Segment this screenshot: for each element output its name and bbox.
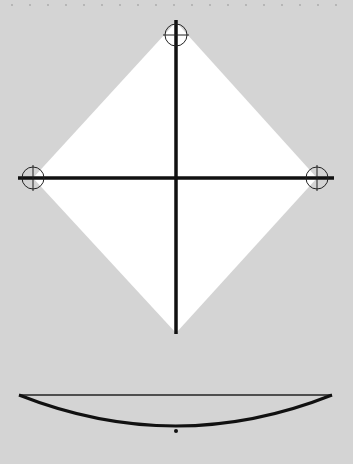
diagram-canvas [0, 0, 353, 464]
center-dot [174, 429, 178, 433]
dotted-edge [11, 4, 337, 6]
side-view-curve [19, 395, 332, 426]
